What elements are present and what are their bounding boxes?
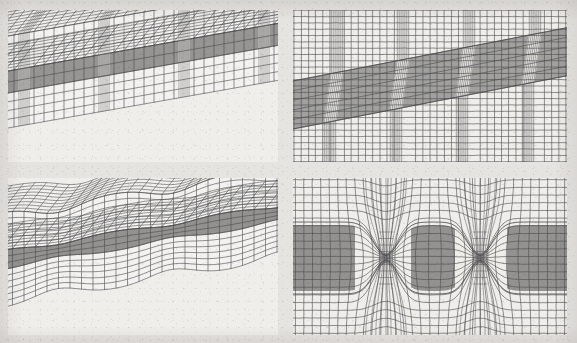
- panel-c-mesh: [8, 178, 278, 335]
- panel-a: [8, 10, 278, 162]
- panel-c: [8, 178, 278, 335]
- panel-d: [293, 178, 567, 335]
- panel-d-block-0: [293, 225, 355, 291]
- panel-d-block-1: [411, 225, 455, 291]
- figure-root: (a) (b) (c) (d): [0, 0, 577, 343]
- panel-d-block-2: [507, 225, 567, 291]
- panel-a-mesh: [8, 10, 278, 162]
- panel-d-mesh: [293, 178, 567, 335]
- panel-b-mesh: [293, 10, 567, 162]
- panel-b: [293, 10, 567, 162]
